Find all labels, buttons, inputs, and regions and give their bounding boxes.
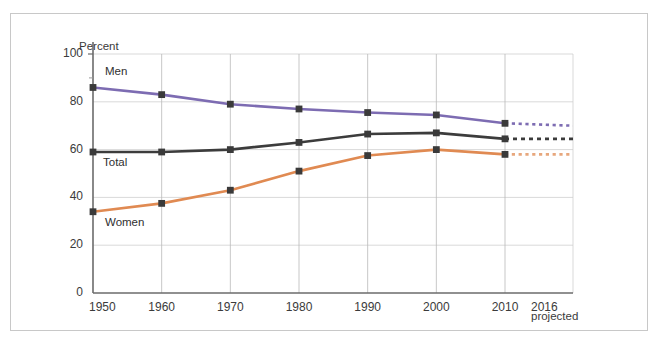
marker-men-1990 bbox=[364, 109, 371, 116]
marker-total-2000 bbox=[433, 129, 440, 136]
marker-men-1980 bbox=[296, 106, 303, 113]
marker-total-1950 bbox=[90, 149, 97, 156]
marker-total-1980 bbox=[296, 139, 303, 146]
marker-men-2000 bbox=[433, 112, 440, 119]
marker-women-1990 bbox=[364, 152, 371, 159]
marker-men-1960 bbox=[158, 91, 165, 98]
marker-men-1970 bbox=[227, 101, 234, 108]
chart-frame: Percent 020406080100 1950196019701980199… bbox=[10, 13, 648, 331]
series-label-women: Women bbox=[105, 216, 144, 228]
marker-men-1950 bbox=[90, 84, 97, 91]
marker-total-1960 bbox=[158, 149, 165, 156]
marker-women-1950 bbox=[90, 208, 97, 215]
marker-total-2010 bbox=[502, 135, 509, 142]
marker-total-1990 bbox=[364, 131, 371, 138]
marker-women-1970 bbox=[227, 187, 234, 194]
series-label-total: Total bbox=[103, 156, 127, 168]
marker-women-1960 bbox=[158, 200, 165, 207]
series-label-men: Men bbox=[105, 65, 127, 77]
marker-women-2000 bbox=[433, 146, 440, 153]
chart-plot-area bbox=[11, 14, 649, 332]
series-projection-men bbox=[505, 123, 573, 125]
marker-total-1970 bbox=[227, 146, 234, 153]
marker-men-2010 bbox=[502, 120, 509, 127]
marker-women-2010 bbox=[502, 151, 509, 158]
marker-women-1980 bbox=[296, 168, 303, 175]
